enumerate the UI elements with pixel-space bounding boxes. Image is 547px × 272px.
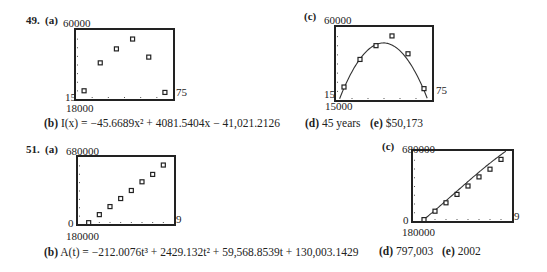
plot-layer	[0, 0, 547, 272]
